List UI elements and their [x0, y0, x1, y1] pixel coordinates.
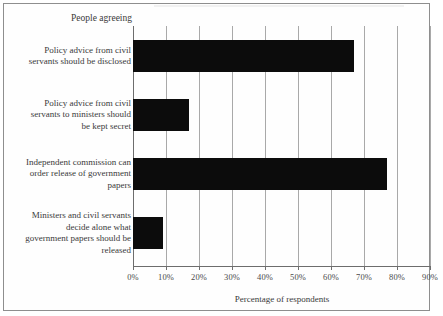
x-tick-80%	[397, 266, 398, 270]
x-tick-label-90%: 90%	[410, 272, 443, 282]
category-label-line: Policy advice from civil	[13, 45, 131, 57]
x-tick-90%	[430, 266, 431, 270]
category-label-1: Policy advice from civilservants should …	[13, 45, 131, 68]
category-label-3: Independent commission canorder release …	[13, 157, 131, 192]
x-tick-70%	[364, 266, 365, 270]
bar-4	[133, 217, 163, 249]
category-label-4: Ministers and civil servantsdecide alone…	[13, 210, 131, 256]
x-axis-title: Percentage of respondents	[133, 294, 431, 304]
gridline-80%	[397, 26, 398, 266]
category-label-line: order release of government	[13, 168, 131, 180]
category-label-line: servants should be disclosed	[13, 56, 131, 68]
category-label-column: Policy advice from civilservants should …	[12, 26, 131, 266]
category-label-line: servants to ministers should	[13, 109, 131, 121]
bar-1	[133, 40, 354, 72]
scan-artifact	[154, 5, 404, 7]
x-tick-60%	[331, 266, 332, 270]
x-tick-10%	[166, 266, 167, 270]
category-label-line: government papers should be	[13, 233, 131, 245]
bar-2	[133, 99, 189, 131]
x-tick-0%	[133, 266, 134, 270]
x-tick-20%	[199, 266, 200, 270]
chart-frame: People agreeing Policy advice from civil…	[3, 3, 430, 311]
category-label-line: papers	[13, 180, 131, 192]
category-label-line: Policy advice from civil	[13, 98, 131, 110]
x-axis-line	[133, 266, 431, 267]
category-label-2: Policy advice from civilservants to mini…	[13, 98, 131, 133]
x-tick-30%	[232, 266, 233, 270]
plot-area	[133, 26, 430, 266]
x-tick-40%	[265, 266, 266, 270]
x-tick-50%	[298, 266, 299, 270]
category-label-line: be kept secret	[13, 121, 131, 133]
category-label-line: decide alone what	[13, 222, 131, 234]
category-label-line: released	[13, 245, 131, 257]
gridline-70%	[364, 26, 365, 266]
category-label-line: Independent commission can	[13, 157, 131, 169]
legend-label-people-agreeing: People agreeing	[40, 13, 132, 23]
category-label-line: Ministers and civil servants	[13, 210, 131, 222]
gridline-90%	[430, 26, 431, 266]
bar-3	[133, 158, 387, 190]
